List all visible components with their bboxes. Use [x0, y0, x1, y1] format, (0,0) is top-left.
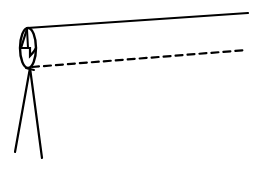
- stand-crossbar: [26, 68, 34, 70]
- eye-icon: [20, 28, 36, 68]
- stand-leg-right: [30, 68, 42, 158]
- line-of-sight: [27, 13, 248, 28]
- stand-leg-left: [15, 68, 30, 152]
- horizontal-reference-line: [32, 50, 247, 67]
- eye-inner-line: [27, 29, 28, 48]
- observer-diagram: [0, 0, 264, 169]
